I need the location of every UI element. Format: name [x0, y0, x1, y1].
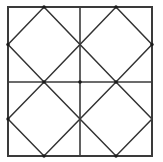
vertex-dot-left-midpoint-lower: [6, 117, 9, 120]
vertex-dot-bottom-right-quadrant-apex: [114, 154, 117, 157]
figure-background: [0, 0, 163, 162]
vertex-dot-left-midpoint-upper: [6, 43, 9, 46]
vertex-dot-top-left-quadrant-apex: [42, 5, 45, 8]
vertex-dot-center: [78, 80, 82, 84]
vertex-dot-top-right-quadrant-apex: [114, 5, 117, 8]
vertex-dot-quadrant-join-left: [42, 80, 46, 84]
vertex-dot-bottom-left-quadrant-apex: [42, 154, 45, 157]
geometric-figure: [0, 0, 163, 162]
vertex-dot-right-midpoint-upper: [150, 43, 153, 46]
vertex-dot-quadrant-join-right: [114, 80, 118, 84]
